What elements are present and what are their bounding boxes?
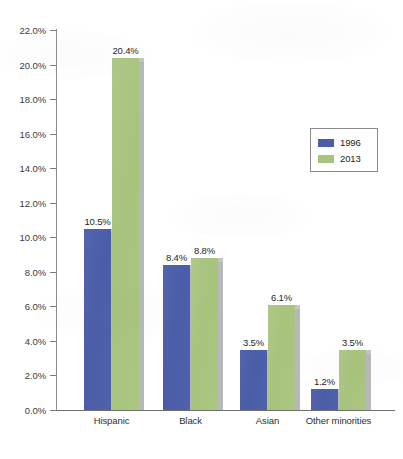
y-axis-tick bbox=[50, 30, 57, 31]
y-axis-tick bbox=[50, 306, 57, 307]
bar-body bbox=[311, 389, 338, 410]
legend-entry-1996: 1996 bbox=[318, 135, 377, 151]
bar-drop-shadow-cap bbox=[139, 58, 144, 62]
y-axis-tick bbox=[50, 272, 57, 273]
bar-drop-shadow-cap bbox=[218, 258, 223, 262]
legend-label-2013: 2013 bbox=[340, 154, 361, 164]
bar-value-label: 8.8% bbox=[194, 245, 215, 256]
bar-chart: 22.0%20.0%18.0%16.0%14.0%12.0%10.0%8.0%6… bbox=[0, 0, 403, 459]
bar-drop-shadow-cap bbox=[295, 305, 300, 309]
y-axis-tick-label: 12.0% bbox=[20, 197, 46, 208]
y-axis-tick-label: 18.0% bbox=[20, 94, 46, 105]
plot-area: 10.5%20.4%8.4%8.8%3.5%6.1%1.2%3.5% bbox=[57, 30, 397, 410]
chart-legend: 1996 2013 bbox=[310, 128, 378, 172]
bar-value-label: 10.5% bbox=[85, 216, 111, 227]
bar-drop-shadow-cap bbox=[366, 350, 371, 354]
bar-body bbox=[112, 58, 139, 410]
bar-drop-shadow bbox=[366, 354, 371, 410]
y-axis-tick bbox=[50, 134, 57, 135]
bar-value-label: 8.4% bbox=[166, 252, 187, 263]
bar-body bbox=[339, 350, 366, 410]
y-axis-tick-label: 22.0% bbox=[20, 25, 46, 36]
x-axis-line bbox=[57, 410, 395, 411]
y-axis-tick bbox=[50, 99, 57, 100]
y-axis-tick-label: 6.0% bbox=[25, 301, 46, 312]
y-axis-tick bbox=[50, 341, 57, 342]
bar-hispanic-2013 bbox=[112, 58, 139, 410]
bar-body bbox=[191, 258, 218, 410]
bar-value-label: 1.2% bbox=[314, 376, 335, 387]
bar-drop-shadow bbox=[218, 262, 223, 410]
y-axis-tick-label: 8.0% bbox=[25, 266, 46, 277]
x-axis-label-black: Black bbox=[179, 415, 202, 426]
y-axis-tick-label: 2.0% bbox=[25, 370, 46, 381]
bar-drop-shadow bbox=[295, 309, 300, 410]
bar-asian-1996 bbox=[240, 350, 267, 410]
x-axis-label-hispanic: Hispanic bbox=[94, 415, 130, 426]
legend-label-1996: 1996 bbox=[340, 138, 361, 148]
y-axis-tick-label: 4.0% bbox=[25, 335, 46, 346]
y-axis-tick bbox=[50, 375, 57, 376]
bar-body bbox=[268, 305, 295, 410]
y-axis-tick bbox=[50, 237, 57, 238]
bar-body bbox=[240, 350, 267, 410]
y-axis-tick-label: 20.0% bbox=[20, 59, 46, 70]
y-axis-tick-label: 14.0% bbox=[20, 163, 46, 174]
bar-black-1996 bbox=[163, 265, 190, 410]
bar-value-label: 20.4% bbox=[113, 45, 139, 56]
bar-value-label: 3.5% bbox=[342, 337, 363, 348]
bar-drop-shadow bbox=[139, 62, 144, 410]
bar-value-label: 3.5% bbox=[243, 337, 264, 348]
bar-value-label: 6.1% bbox=[271, 292, 292, 303]
y-axis-tick bbox=[50, 203, 57, 204]
y-axis-tick bbox=[50, 168, 57, 169]
y-axis-tick-label: 0.0% bbox=[25, 405, 46, 416]
y-axis-tick bbox=[50, 410, 57, 411]
bar-body bbox=[84, 229, 111, 410]
y-axis-tick-label: 10.0% bbox=[20, 232, 46, 243]
bar-asian-2013 bbox=[268, 305, 295, 410]
bar-other-minorities-2013 bbox=[339, 350, 366, 410]
bar-black-2013 bbox=[191, 258, 218, 410]
y-axis-tick-label: 16.0% bbox=[20, 128, 46, 139]
legend-entry-2013: 2013 bbox=[318, 151, 377, 167]
x-axis-label-asian: Asian bbox=[256, 415, 279, 426]
x-axis-label-other-minorities: Other minorities bbox=[306, 415, 371, 426]
bar-body bbox=[163, 265, 190, 410]
bar-other-minorities-1996 bbox=[311, 389, 338, 410]
y-axis-tick bbox=[50, 65, 57, 66]
bar-hispanic-1996 bbox=[84, 229, 111, 410]
legend-swatch-2013 bbox=[318, 155, 334, 163]
legend-swatch-1996 bbox=[318, 139, 334, 147]
